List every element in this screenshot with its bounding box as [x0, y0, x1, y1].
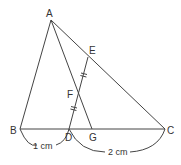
point-label-d: D: [65, 132, 72, 143]
point-label-f: F: [67, 89, 73, 100]
dimension-arc-dc-right: [130, 129, 165, 152]
dimension-label-dc: 2 cm: [108, 147, 128, 157]
equal-tick-fd: [70, 107, 77, 111]
point-label-a: A: [46, 8, 53, 19]
segment-ac: [51, 20, 165, 129]
point-label-e: E: [89, 45, 96, 56]
point-label-b: B: [10, 125, 17, 136]
point-label-g: G: [89, 132, 97, 143]
triangle-diagram: 1 cm 2 cm A B C D G E F: [0, 0, 181, 165]
dimension-label-bd: 1 cm: [33, 141, 53, 151]
segment-ab: [20, 20, 51, 129]
point-label-c: C: [167, 125, 174, 136]
dimension-arc-dc-left: [69, 129, 105, 152]
